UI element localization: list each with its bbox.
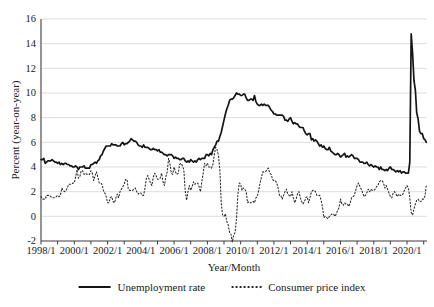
x-tick-label: 2000/1 [60, 245, 89, 256]
x-tick-label: 2010/1 [226, 245, 255, 256]
y-tick-label: 8 [31, 112, 36, 123]
x-tick-label: 2004/1 [126, 245, 155, 256]
y-tick-label: 2 [31, 186, 36, 197]
series-unemployment-rate [41, 34, 426, 173]
x-tick-label: 2016/1 [326, 245, 355, 256]
y-tick-label: 10 [26, 87, 37, 98]
x-tick-label: 2002/1 [93, 245, 122, 256]
chart-figure: -202468101214161998/12000/12002/12004/12… [0, 0, 434, 307]
dotted-line-icon [231, 286, 261, 288]
legend-label-cpi: Consumer price index [268, 281, 365, 293]
legend-item-cpi: Consumer price index [231, 281, 365, 293]
x-tick-label: 2006/1 [160, 245, 189, 256]
legend-item-unemployment: Unemployment rate [79, 281, 206, 293]
x-axis-title: Year/Month [208, 261, 261, 273]
x-tick-label: 2012/1 [259, 245, 288, 256]
x-tick-label: 2020/1 [392, 245, 421, 256]
x-tick-label: 1998/1 [26, 245, 55, 256]
y-tick-label: 14 [26, 38, 37, 49]
y-tick-label: 16 [26, 13, 37, 24]
y-tick-label: 6 [31, 137, 36, 148]
legend: Unemployment rate Consumer price index [79, 281, 366, 293]
x-tick-label: 2014/1 [293, 245, 322, 256]
y-axis-title: Percent (year-on-year) [9, 80, 21, 179]
y-tick-label: 4 [31, 161, 37, 172]
legend-label-unemployment: Unemployment rate [118, 281, 206, 293]
y-tick-label: 0 [31, 211, 36, 222]
y-tick-label: 12 [26, 63, 37, 74]
solid-line-icon [79, 286, 111, 288]
x-tick-label: 2018/1 [359, 245, 388, 256]
series-consumer-price-index [41, 147, 426, 242]
x-tick-label: 2008/1 [193, 245, 222, 256]
